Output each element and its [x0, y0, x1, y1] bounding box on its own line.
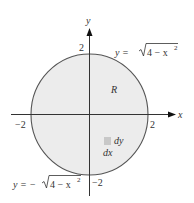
lower-eq-radicand: 4 − x: [50, 179, 71, 190]
upper-eq-prefix: y =: [114, 47, 131, 58]
tick-x-neg2: −2: [15, 119, 26, 130]
tick-y-2: 2: [79, 42, 84, 53]
dx-label: dx: [103, 147, 113, 158]
x-axis-label: x: [177, 109, 183, 120]
lower-eq-exponent: 2: [77, 176, 81, 184]
lower-curve-equation: y = − 4 − x 2: [12, 176, 81, 191]
area-element-rect: [104, 137, 111, 145]
lower-eq-prefix: y = −: [12, 179, 36, 190]
upper-curve-equation: y = 4 − x 2: [114, 44, 178, 59]
y-axis-arrow-icon: [87, 28, 93, 36]
tick-x-2: 2: [150, 119, 155, 130]
x-axis-arrow-icon: [168, 112, 176, 118]
dy-label: dy: [114, 135, 124, 146]
upper-eq-radicand: 4 − x: [147, 47, 168, 58]
tick-y-neg2: −2: [92, 177, 103, 188]
disk-region-diagram: x y 2 −2 −2 2 R dy dx y = 4 − x 2 y = − …: [0, 0, 194, 203]
y-axis-label: y: [85, 15, 91, 26]
upper-eq-exponent: 2: [174, 44, 178, 52]
region-label: R: [110, 84, 117, 95]
